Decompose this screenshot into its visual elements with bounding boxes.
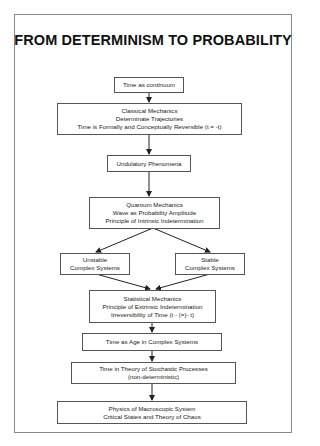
node-line: Complex Systems bbox=[185, 264, 235, 272]
node-line: Statistical Mechanics bbox=[124, 295, 182, 303]
node-line: Irreversibility of Time (t - (=)- t) bbox=[111, 311, 194, 319]
node-line: Undulatory Phenomena bbox=[116, 160, 181, 168]
node-statistical-mechanics: Statistical Mechanics Principle of Extri… bbox=[89, 290, 216, 323]
node-line: (non-deterministic) bbox=[128, 373, 179, 381]
node-line: Principle of Extrinsic Indetermination bbox=[102, 303, 202, 311]
node-line: Physics of Macroscopic System bbox=[109, 405, 196, 413]
node-classical-mechanics: Classical Mechanics Determinate Trajecto… bbox=[57, 103, 242, 135]
node-time-as-continuum: Time as continuum bbox=[114, 77, 184, 93]
node-line: Time is Formally and Conceptually Revers… bbox=[77, 123, 221, 131]
node-line: Wave as Probability Amplitude bbox=[113, 209, 196, 217]
node-unstable-complex-systems: Unstable Complex Systems bbox=[60, 253, 130, 275]
node-line: Stable bbox=[201, 256, 219, 264]
arrow-quantum-to-stable bbox=[153, 228, 210, 252]
node-quantum-mechanics: Quantum Mechanics Wave as Probability Am… bbox=[89, 197, 220, 229]
node-line: Principle of Intrinsic Indetermination bbox=[105, 217, 203, 225]
node-line: Unstable bbox=[83, 256, 107, 264]
node-stochastic-processes: Time in Theory of Stochastic Processes (… bbox=[71, 362, 236, 384]
node-line: Classical Mechanics bbox=[121, 107, 177, 115]
node-line: Critical States and Theory of Chaos bbox=[103, 413, 201, 421]
node-line: Complex Systems bbox=[70, 264, 120, 272]
node-line: Time as Age in Complex Systems bbox=[106, 338, 198, 346]
node-prefix: Time as bbox=[123, 81, 147, 88]
node-line: Quantum Mechanics bbox=[126, 201, 183, 209]
node-stable-complex-systems: Stable Complex Systems bbox=[175, 253, 245, 275]
node-macroscopic-physics: Physics of Macroscopic System Critical S… bbox=[57, 401, 247, 424]
node-time-as-age: Time as Age in Complex Systems bbox=[82, 333, 222, 351]
node-emphasis: continuum bbox=[146, 81, 175, 88]
node-text: Time as continuum bbox=[123, 81, 175, 89]
node-undulatory-phenomena: Undulatory Phenomena bbox=[107, 155, 191, 172]
node-line: Time in Theory of Stochastic Processes bbox=[99, 365, 208, 373]
arrow-stable-to-statistical bbox=[156, 274, 210, 289]
node-line: Determinate Trajectories bbox=[116, 115, 183, 123]
arrow-unstable-to-statistical bbox=[96, 274, 150, 289]
arrow-quantum-to-unstable bbox=[96, 228, 153, 252]
